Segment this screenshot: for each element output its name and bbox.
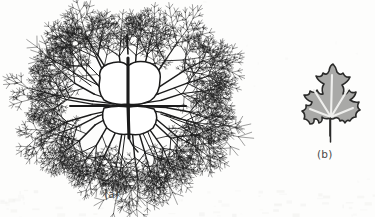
panel-b-label: (b) bbox=[317, 148, 332, 160]
dendritic-network-drawing bbox=[8, 6, 243, 196]
figure-panel-a bbox=[8, 6, 243, 196]
figure-page: (a) (b) bbox=[0, 0, 375, 217]
panel-a-label: (a) bbox=[104, 188, 119, 200]
figure-panel-b bbox=[292, 62, 368, 152]
lobed-leaf-drawing bbox=[292, 62, 368, 152]
